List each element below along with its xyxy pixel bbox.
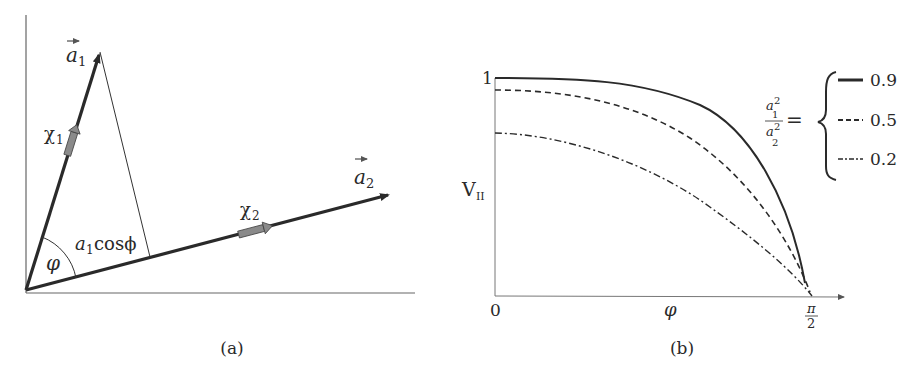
y-tick-1: 1 — [482, 68, 493, 88]
panel-b: 1 0 φ π 2 V II a 2 1 a 2 2 = 0.9 0.5 — [461, 68, 897, 358]
legend-ratio: a 2 1 a 2 2 = — [765, 95, 803, 148]
legend-brace-icon — [818, 72, 836, 180]
x-axis-label: φ — [664, 299, 677, 320]
legend-item-0.5: 0.5 — [838, 110, 897, 130]
projection-label-subscript: 1 — [86, 243, 94, 257]
svg-text:0.9: 0.9 — [870, 70, 897, 90]
y-axis-label: V — [461, 178, 476, 200]
curve-0.5 — [495, 90, 810, 292]
chi1-label: χ — [44, 123, 55, 144]
projection-label: a — [75, 233, 86, 254]
svg-text:0.2: 0.2 — [870, 149, 897, 169]
projection-label-cos: cosϕ — [94, 233, 136, 254]
projection-line — [100, 52, 150, 257]
vector-a1-label: a — [66, 43, 78, 67]
legend-item-0.9: 0.9 — [838, 70, 897, 90]
chi1-subscript: 1 — [56, 133, 64, 147]
legend-item-0.2: 0.2 — [838, 149, 897, 169]
svg-text:2: 2 — [774, 121, 780, 132]
panel-a-caption: (a) — [220, 338, 243, 358]
curve-0.2 — [495, 133, 812, 296]
vector-a2-label: a — [354, 165, 366, 189]
svg-text:2: 2 — [774, 95, 780, 106]
chi2-label: χ — [240, 199, 251, 220]
chi1-block-arrow-icon — [62, 123, 83, 157]
svg-text:1: 1 — [772, 109, 778, 120]
x-tick-pi-num: π — [806, 301, 816, 316]
svg-text:0.5: 0.5 — [870, 110, 897, 130]
angle-phi-label: φ — [46, 251, 60, 275]
x-tick-pi-den: 2 — [807, 316, 815, 331]
panel-b-caption: (b) — [670, 338, 694, 358]
vector-a1-subscript: 1 — [78, 54, 86, 69]
figure: a 1 a 2 χ 1 χ 2 a 1 cosϕ φ (a) 1 0 φ π 2… — [0, 0, 923, 379]
svg-text:2: 2 — [772, 137, 778, 148]
curve-0.9 — [495, 78, 805, 283]
panel-a: a 1 a 2 χ 1 χ 2 a 1 cosϕ φ (a) — [26, 15, 415, 358]
svg-text:=: = — [786, 108, 803, 132]
x-axis — [495, 296, 844, 297]
chi2-subscript: 2 — [252, 209, 260, 223]
x-tick-0: 0 — [490, 300, 501, 320]
y-axis-label-subscript: II — [476, 190, 485, 203]
vector-a2-subscript: 2 — [366, 176, 374, 191]
